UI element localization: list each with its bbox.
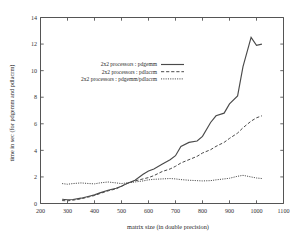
x-tick-label: 1100 [278,208,290,214]
x-tick-label: 800 [198,208,207,214]
y-tick-label: 14 [31,15,37,21]
y-tick-label: 8 [34,94,37,100]
series-line-1 [62,37,262,199]
x-tick-label: 900 [225,208,234,214]
x-tick-label: 500 [117,208,126,214]
line-chart: 20030040050060070080090010001100 0246810… [0,0,299,236]
y-tick-label: 10 [31,68,37,74]
x-tick-label: 300 [63,208,72,214]
data-series-group [62,37,262,200]
chart-legend: 2x2 processors : pdgemm2x2 processors : … [81,61,184,81]
x-tick-label: 200 [36,208,45,214]
series-line-3 [62,175,262,184]
x-tick-label: 1000 [250,208,262,214]
y-axis-ticks: 02468101214 [31,15,284,207]
plot-frame [41,18,284,204]
legend-label-1: 2x2 processors : pdgemm [101,61,158,67]
y-tick-label: 4 [34,148,37,154]
y-tick-label: 2 [34,174,37,180]
x-tick-label: 600 [144,208,153,214]
y-axis-label: time in sec (for pdgemm and pdlacrm) [8,65,16,162]
legend-label-2: 2x2 processors : pdlacrm [102,69,158,75]
y-tick-label: 0 [34,201,37,207]
x-axis-ticks: 20030040050060070080090010001100 [36,18,290,214]
x-axis-label: matrix size (in double precision) [127,223,209,231]
y-tick-label: 6 [34,121,37,127]
series-line-2 [62,116,262,201]
x-tick-label: 400 [90,208,99,214]
y-tick-label: 12 [31,41,37,47]
x-tick-label: 700 [171,208,180,214]
chart-figure: 20030040050060070080090010001100 0246810… [0,0,299,236]
legend-label-3: 2x2 processors : pdgemm/pdlacrm [81,76,158,82]
